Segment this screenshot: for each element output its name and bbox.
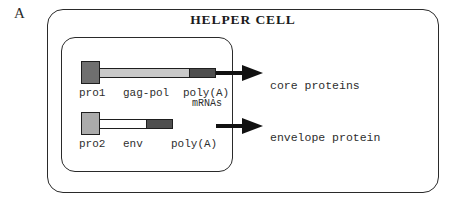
label-pro2: pro2: [79, 139, 123, 150]
promoter-box-pro2: [81, 112, 100, 135]
construct-gag-pol: [81, 61, 216, 84]
construct-labels-env: pro2envpoly(A): [79, 139, 217, 150]
construct-env: [81, 112, 173, 135]
label-pro1: pro1: [79, 88, 123, 99]
arrow-to-core-proteins: [216, 64, 264, 82]
label-env: env: [123, 139, 171, 150]
polya-segment-env: [146, 119, 173, 129]
polya-segment-gag-pol: [189, 68, 216, 78]
panel-letter: A: [14, 6, 25, 21]
cell-title: HELPER CELL: [47, 13, 439, 27]
helper-cell-diagram: A HELPER CELL pro1gag-polpoly(A) pro2env…: [0, 0, 456, 210]
product-label-envelope-protein: envelope protein: [270, 132, 380, 144]
promoter-box-pro1: [81, 61, 100, 84]
product-label-core-proteins: core proteins: [270, 80, 360, 92]
label-polya-env: poly(A): [171, 139, 217, 150]
arrow-to-envelope-protein: [216, 117, 264, 135]
label-gag-pol: gag-pol: [123, 88, 183, 99]
mrnas-annotation: mRNAs: [192, 99, 222, 109]
